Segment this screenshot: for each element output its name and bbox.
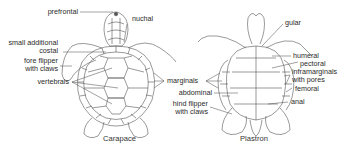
caption-carapace: Carapace — [103, 134, 136, 143]
label-prefrontal: prefrontal — [44, 8, 78, 16]
label-vertebrals: vertebrals — [0, 78, 69, 86]
label-small-additional-costal-line2: costal — [0, 47, 58, 55]
label-inframarginals-line2: with pores — [292, 76, 325, 84]
label-hind-flipper-line2: with claws — [160, 108, 208, 116]
label-anal: anal — [291, 98, 305, 106]
label-femoral: femoral — [295, 85, 319, 93]
label-fore-flipper-line2: with claws — [0, 65, 58, 73]
caption-plastron: Plastron — [240, 134, 268, 143]
label-marginals: marginals — [167, 77, 198, 85]
label-abdominal: abdominal — [160, 89, 212, 97]
carapace-drawing — [62, 12, 176, 138]
label-nuchal: nuchal — [132, 15, 153, 23]
label-gular: gular — [285, 19, 301, 27]
